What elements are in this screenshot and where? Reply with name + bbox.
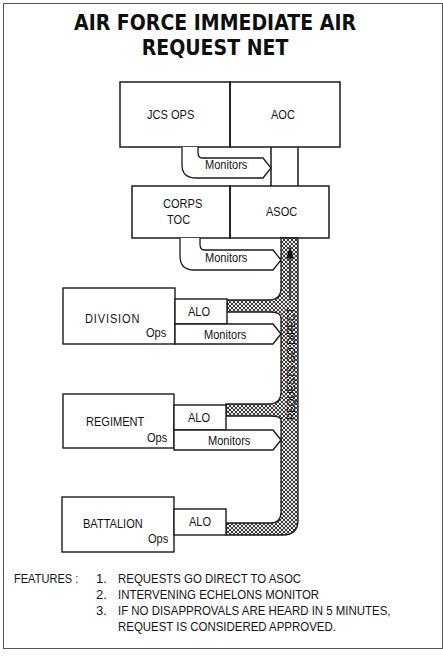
features-list: FEATURES : 1. REQUESTS GO DIRECT TO ASOC… [14,571,428,635]
feature-item: 3. IF NO DISAPPROVALS ARE HEARD IN 5 MIN… [14,603,428,619]
monitors-label-division: Monitors [204,327,246,342]
monitors-label-jcs: Monitors [205,157,247,172]
battalion-alo-label: ALO [189,514,211,529]
feature-item: REQUEST IS CONSIDERED APPROVED. [14,619,428,635]
monitors-label-regiment: Monitors [208,433,250,448]
jcs-ops-label: JCS OPS [147,107,194,122]
regiment-label: REGIMENT [86,414,144,429]
division-label: DIVISION [85,311,140,326]
monitors-label-corps: Monitors [205,250,247,265]
features-heading: FEATURES : [14,571,84,587]
regiment-alo-label: ALO [188,410,210,425]
feature-item: FEATURES : 1. REQUESTS GO DIRECT TO ASOC [14,571,428,587]
regiment-ops-label: Ops [147,430,167,445]
battalion-label: BATTALION [83,516,143,531]
feature-item: 2. INTERVENING ECHELONS MONITOR [14,587,428,603]
aoc-asoc-connector [271,147,298,186]
toc-label: TOC [167,212,190,227]
aoc-label: AOC [271,107,295,122]
division-alo-label: ALO [188,304,210,319]
requests-go-direct-label: REQUESTS GO DIRECT [285,308,297,420]
asoc-label: ASOC [266,204,297,219]
division-ops-label: Ops [146,325,166,340]
battalion-ops-label: Ops [148,531,168,546]
corps-label: CORPS [163,196,202,211]
